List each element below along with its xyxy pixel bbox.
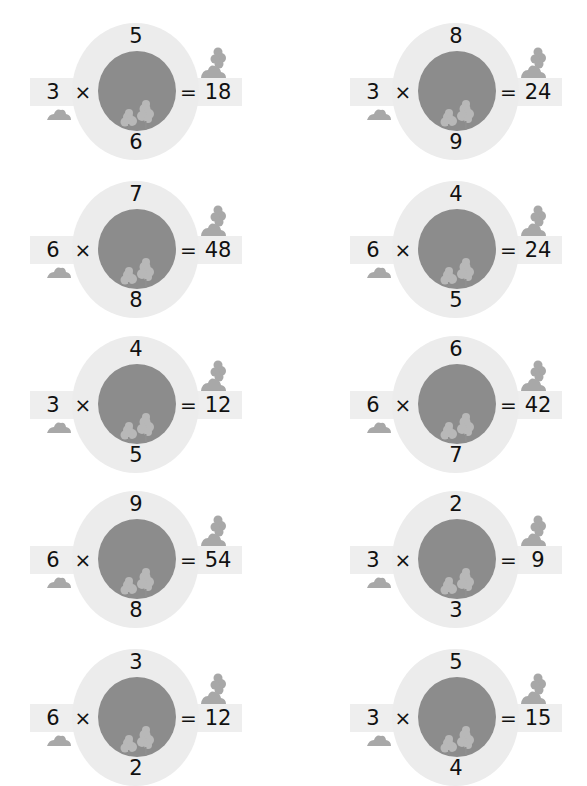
times-sign: × [73,238,93,262]
result: 12 [196,706,240,730]
problem-tile-2: 8 3 × = 24 9 [340,0,580,155]
inner-trees-icon [118,563,158,599]
inner-circle [98,519,176,599]
inner-circle [418,51,496,131]
result: 9 [516,548,560,572]
bottom-number: 3 [436,598,476,622]
tree-icon [521,203,547,236]
tree-icon [521,671,547,704]
problem-tile-8: 2 3 × = 9 3 [340,468,580,623]
tree-icon [201,513,227,546]
result: 54 [196,548,240,572]
problem-tile-5: 4 3 × = 12 5 [20,313,260,468]
top-number: 9 [116,492,156,516]
equals-sign: = [500,706,516,730]
equals-sign: = [500,80,516,104]
bush-icon [367,266,391,278]
times-sign: × [393,80,413,104]
multiplier: 6 [38,548,68,572]
times-sign: × [73,393,93,417]
times-sign: × [393,706,413,730]
equals-sign: = [180,80,196,104]
equals-sign: = [180,238,196,262]
problem-tile-7: 9 6 × = 54 8 [20,468,260,623]
bush-icon [47,576,71,588]
tree-icon [201,203,227,236]
inner-trees-icon [438,408,478,444]
multiplier: 6 [358,238,388,262]
equals-sign: = [180,548,196,572]
inner-trees-icon [118,253,158,289]
multiplier: 3 [358,706,388,730]
inner-trees-icon [118,95,158,131]
times-sign: × [393,393,413,417]
top-number: 5 [436,650,476,674]
bottom-number: 7 [436,443,476,467]
bottom-number: 2 [116,756,156,780]
bush-icon [367,734,391,746]
bottom-number: 9 [436,130,476,154]
bottom-number: 6 [116,130,156,154]
problem-tile-9: 3 6 × = 12 2 [20,626,260,781]
problem-tile-1: 5 3 × = 18 6 [20,0,260,155]
tree-icon [201,45,227,78]
multiplier: 3 [38,80,68,104]
result: 24 [516,238,560,262]
inner-circle [98,209,176,289]
top-number: 4 [436,182,476,206]
bottom-number: 5 [436,288,476,312]
top-number: 5 [116,24,156,48]
tree-icon [201,358,227,391]
problem-tile-10: 5 3 × = 15 4 [340,626,580,781]
inner-circle [418,364,496,444]
top-number: 4 [116,337,156,361]
multiplier: 3 [358,548,388,572]
equals-sign: = [180,706,196,730]
tree-icon [521,45,547,78]
tree-icon [521,358,547,391]
equals-sign: = [500,548,516,572]
multiplier: 6 [358,393,388,417]
top-number: 6 [436,337,476,361]
problem-tile-6: 6 6 × = 42 7 [340,313,580,468]
bottom-number: 8 [116,598,156,622]
result: 24 [516,80,560,104]
times-sign: × [73,80,93,104]
tree-icon [201,671,227,704]
bottom-number: 8 [116,288,156,312]
equals-sign: = [500,393,516,417]
inner-circle [418,209,496,289]
problem-tile-3: 7 6 × = 48 8 [20,158,260,313]
equals-sign: = [500,238,516,262]
inner-trees-icon [438,721,478,757]
result: 12 [196,393,240,417]
inner-trees-icon [438,563,478,599]
multiplier: 3 [38,393,68,417]
inner-circle [98,364,176,444]
bush-icon [367,108,391,120]
multiplier: 6 [38,238,68,262]
top-number: 3 [116,650,156,674]
bush-icon [47,734,71,746]
inner-circle [418,519,496,599]
problem-tile-4: 4 6 × = 24 5 [340,158,580,313]
multiplier: 6 [38,706,68,730]
bush-icon [47,266,71,278]
bottom-number: 5 [116,443,156,467]
inner-circle [98,677,176,757]
result: 15 [516,706,560,730]
times-sign: × [393,238,413,262]
top-number: 2 [436,492,476,516]
inner-trees-icon [438,253,478,289]
times-sign: × [393,548,413,572]
bush-icon [47,421,71,433]
inner-circle [418,677,496,757]
inner-trees-icon [118,408,158,444]
top-number: 8 [436,24,476,48]
inner-trees-icon [438,95,478,131]
tree-icon [521,513,547,546]
bush-icon [367,421,391,433]
inner-trees-icon [118,721,158,757]
result: 42 [516,393,560,417]
bush-icon [47,108,71,120]
